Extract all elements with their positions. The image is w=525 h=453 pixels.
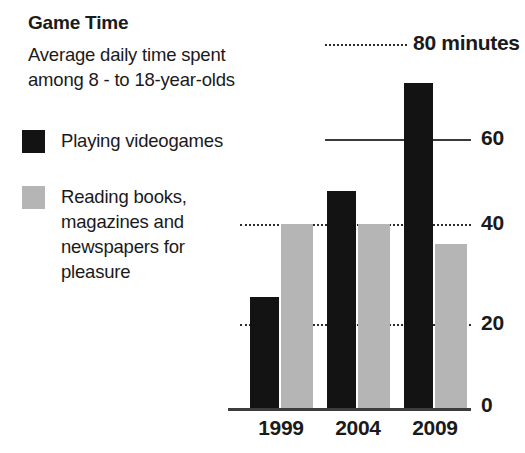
xtick-label-2009: 2009 [400, 416, 470, 440]
ytick-label-40: 40 [481, 211, 504, 235]
bar-2004-playing-videogames [327, 191, 356, 408]
ytick-label-0: 0 [481, 393, 492, 417]
xtick-label-1999: 1999 [246, 416, 316, 440]
x-axis-line [228, 408, 471, 411]
chart-figure: Game Time Average daily time spent among… [0, 0, 525, 453]
ytick-label-60: 60 [481, 126, 504, 150]
bar-1999-reading-books [281, 224, 313, 408]
bar-1999-playing-videogames [250, 297, 279, 408]
xtick-label-2004: 2004 [323, 416, 393, 440]
bar-2004-reading-books [358, 224, 390, 408]
bar-2009-playing-videogames [404, 83, 433, 408]
bar-2009-reading-books [435, 244, 467, 408]
gridline-60 [325, 139, 471, 141]
plot-area: 80 minutes 60 40 20 0 1999 2004 2009 [0, 0, 525, 453]
ytick-label-20: 20 [481, 311, 504, 335]
ytick-label-80: 80 minutes [413, 31, 520, 55]
gridline-80 [325, 44, 407, 46]
